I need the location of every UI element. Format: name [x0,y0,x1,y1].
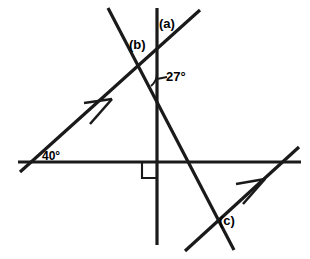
diagram-canvas [0,0,310,259]
label-line-c: (c) [219,214,235,227]
label-angle-40: 40° [42,150,60,162]
label-line-b: (b) [129,38,146,51]
label-line-a: (a) [159,17,175,30]
line-b-descending-line [108,8,234,250]
geometry-diagram: (a) (b) (c) 27° 40° [0,0,310,259]
right-angle-marker [142,162,157,178]
label-angle-27: 27° [166,70,186,83]
line-c-left-ray-line [20,10,200,172]
